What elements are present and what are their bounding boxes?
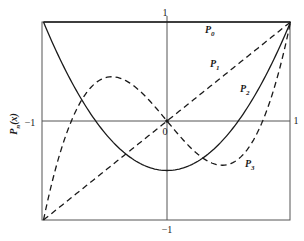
svg-text:Pn(x): Pn(x) <box>8 113 22 135</box>
label-p3: P3 <box>245 158 255 172</box>
tick-bottom: −1 <box>162 224 173 235</box>
y-axis-label: Pn(x) <box>8 113 22 135</box>
label-p1: P1 <box>210 58 220 72</box>
tick-left: −1 <box>25 117 36 128</box>
legendre-polynomials-chart: 1 −1 −1 1 0 Pn(x) P0P1P2P3 <box>0 0 304 241</box>
origin-label: 0 <box>163 126 168 137</box>
tick-top: 1 <box>163 7 168 18</box>
label-p0: P0 <box>205 24 215 38</box>
axes <box>42 16 290 220</box>
tick-right: 1 <box>294 115 299 126</box>
label-p2: P2 <box>240 83 250 97</box>
